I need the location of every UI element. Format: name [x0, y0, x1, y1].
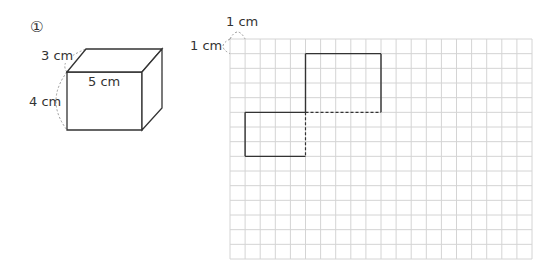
- unit-label-left: 1 cm: [190, 38, 222, 53]
- grid-paper: [0, 0, 559, 274]
- unit-label-top: 1 cm: [226, 14, 258, 29]
